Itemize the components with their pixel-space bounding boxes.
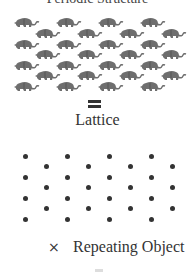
lattice-point xyxy=(107,196,112,201)
lattice-point xyxy=(23,217,28,222)
lattice-point xyxy=(86,206,91,211)
lattice-point xyxy=(149,196,154,201)
lattice-point xyxy=(170,164,175,169)
lattice-point xyxy=(23,154,28,159)
lattice-point xyxy=(65,175,70,180)
repeating-object-label: Repeating Object xyxy=(73,238,185,256)
lattice-point xyxy=(170,206,175,211)
lattice-point xyxy=(107,175,112,180)
lattice-point xyxy=(128,206,133,211)
lattice-point xyxy=(170,185,175,190)
lattice-point xyxy=(107,217,112,222)
lattice-point xyxy=(149,175,154,180)
lattice-point xyxy=(107,154,112,159)
lattice-point xyxy=(23,196,28,201)
lattice-point xyxy=(65,154,70,159)
lattice-points xyxy=(0,0,195,275)
lattice-point xyxy=(149,154,154,159)
clipped-repeating-object-fragment xyxy=(95,269,103,272)
lattice-point xyxy=(23,175,28,180)
lattice-point xyxy=(86,185,91,190)
lattice-point xyxy=(128,185,133,190)
lattice-point xyxy=(44,164,49,169)
lattice-point xyxy=(44,185,49,190)
lattice-point xyxy=(149,217,154,222)
lattice-point xyxy=(65,196,70,201)
lattice-point xyxy=(86,164,91,169)
lattice-point xyxy=(65,217,70,222)
times-icon: × xyxy=(48,239,60,255)
lattice-point xyxy=(128,164,133,169)
lattice-point xyxy=(44,206,49,211)
